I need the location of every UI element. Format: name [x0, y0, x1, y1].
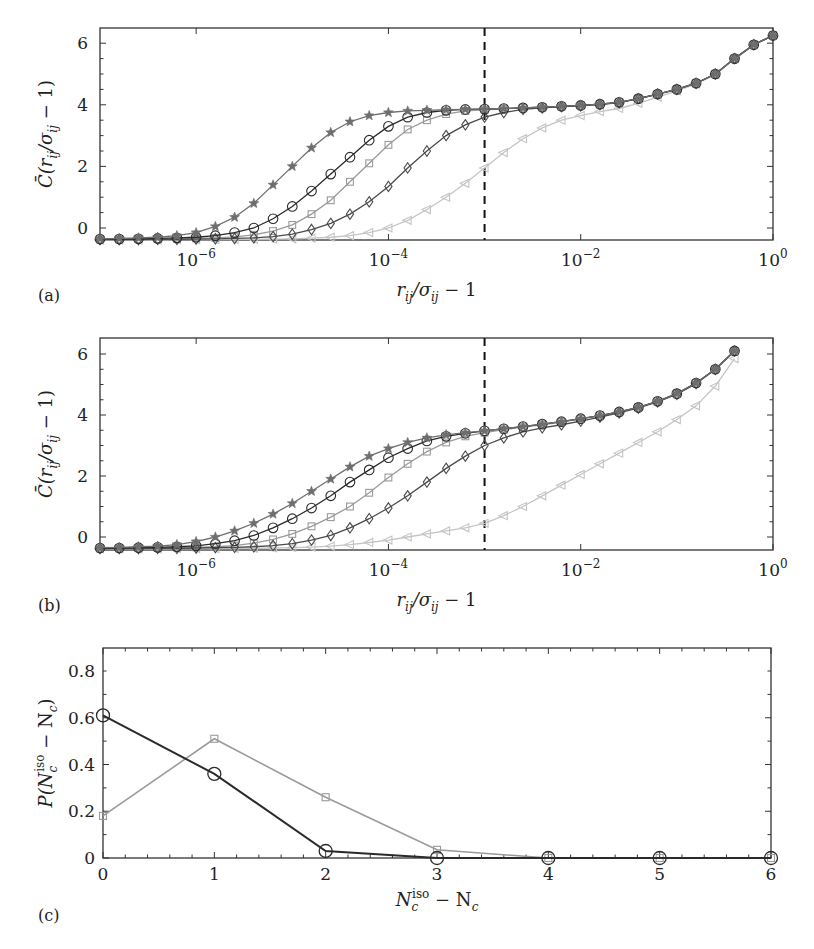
y-tick-label: 0	[84, 848, 95, 868]
x-tick-label: 6	[766, 864, 777, 884]
x-tick-label: 10−6	[176, 557, 215, 580]
series-square	[97, 348, 738, 552]
series-diamond	[96, 30, 776, 245]
y-tick-label: 2	[77, 466, 88, 486]
x-tick-label: 10−4	[369, 557, 409, 580]
panel-a-plot: 024610−610−410−2100rij/σij − 1C̄(rij/σij…	[34, 28, 788, 304]
x-tick-label: 4	[543, 864, 554, 884]
x-tick-label: 0	[98, 864, 109, 884]
x-tick-label: 3	[432, 864, 443, 884]
series-square	[100, 735, 775, 861]
x-axis-label: rij/σij − 1	[396, 589, 476, 614]
x-tick-label: 2	[320, 864, 331, 884]
series-circle	[97, 709, 778, 865]
y-tick-label: 6	[77, 344, 88, 364]
y-tick-label: 0	[77, 218, 88, 238]
y-axis-label: C̄(rij/σij − 1)	[34, 390, 60, 498]
y-axis-label: C̄(rij/σij − 1)	[34, 80, 60, 188]
panel-a-label: (a)	[38, 286, 60, 305]
panel-b-label: (b)	[38, 596, 61, 615]
series-triangle	[95, 355, 738, 553]
y-tick-label: 4	[77, 405, 88, 425]
series-star	[95, 346, 739, 552]
series-triangle	[95, 32, 777, 245]
plot-frame	[100, 28, 773, 240]
x-tick-label: 5	[654, 864, 665, 884]
x-tick-label: 100	[758, 247, 787, 270]
figure: 024610−610−410−2100rij/σij − 1C̄(rij/σij…	[0, 0, 814, 949]
plot-frame	[100, 338, 773, 550]
y-tick-label: 0.6	[68, 708, 95, 728]
x-tick-label: 1	[209, 864, 220, 884]
x-tick-label: 10−6	[176, 247, 215, 270]
series-circle	[95, 31, 778, 244]
y-tick-label: 0.8	[68, 661, 95, 681]
x-tick-label: 100	[758, 557, 787, 580]
panel-c-plot: 00.20.40.60.80123456Nciso − NcP(Nciso − …	[33, 648, 778, 914]
x-axis-label: Nciso − Nc	[395, 887, 479, 914]
x-tick-label: 10−4	[369, 247, 409, 270]
series-diamond	[96, 346, 738, 554]
y-tick-label: 0.2	[68, 801, 95, 821]
series-square	[97, 32, 777, 243]
y-tick-label: 0.4	[68, 755, 95, 775]
x-tick-label: 10−2	[561, 247, 600, 270]
plot-frame	[103, 648, 771, 858]
panel-c-label: (c)	[38, 906, 59, 925]
panel-b-plot: 024610−610−410−2100rij/σij − 1C̄(rij/σij…	[34, 338, 788, 614]
y-tick-label: 4	[77, 95, 88, 115]
series-star	[95, 30, 778, 243]
x-tick-label: 10−2	[561, 557, 600, 580]
y-axis-label: P(Nciso − Nc)	[33, 699, 60, 809]
series-circle	[95, 346, 739, 553]
y-tick-label: 2	[77, 156, 88, 176]
x-axis-label: rij/σij − 1	[396, 279, 476, 304]
y-tick-label: 0	[77, 527, 88, 547]
y-tick-label: 6	[77, 33, 88, 53]
